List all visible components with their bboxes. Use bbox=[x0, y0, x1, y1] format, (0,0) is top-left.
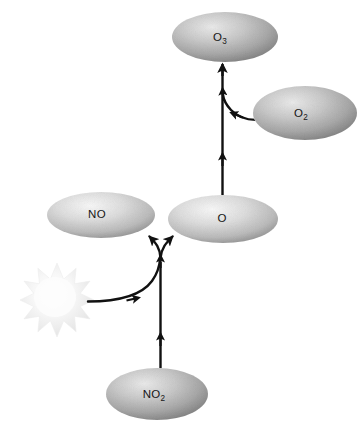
arrow-sunlight-to-reaction bbox=[88, 258, 160, 302]
arrow-split-to-no bbox=[150, 237, 161, 259]
node-o-label: O bbox=[217, 212, 226, 224]
diagram-canvas: O3 O2 NO O NO2 bbox=[0, 0, 363, 432]
ozone-cycle-diagram: O3 O2 NO O NO2 bbox=[0, 0, 363, 432]
node-o[interactable]: O bbox=[168, 195, 278, 243]
sunlight-icon bbox=[20, 263, 94, 337]
node-o2[interactable]: O2 bbox=[253, 86, 357, 140]
node-o3[interactable]: O3 bbox=[172, 12, 278, 62]
node-no2[interactable]: NO2 bbox=[106, 368, 208, 420]
node-no-label: NO bbox=[88, 208, 106, 220]
node-no[interactable]: NO bbox=[47, 192, 155, 238]
arrow-split-to-o bbox=[161, 237, 173, 259]
